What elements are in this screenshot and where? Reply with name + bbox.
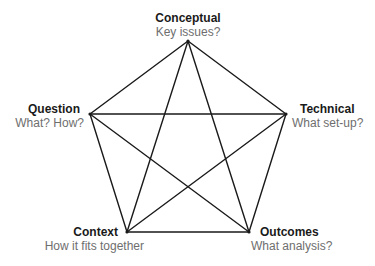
edge-question-conceptual — [90, 41, 188, 114]
node-technical: Technical What set-up? — [292, 102, 363, 130]
node-title: Technical — [292, 102, 363, 116]
vertex-conceptual — [186, 39, 189, 42]
node-title: Context — [45, 225, 144, 239]
edge-technical-outcomes — [249, 114, 286, 232]
node-title: Outcomes — [251, 225, 332, 239]
edge-conceptual-outcomes — [188, 41, 249, 232]
node-subtitle: What analysis? — [251, 239, 332, 253]
vertex-question — [88, 112, 91, 115]
edge-context-question — [90, 114, 127, 232]
edge-question-outcomes — [90, 114, 249, 232]
node-question: Question What? How? — [15, 102, 84, 130]
node-conceptual: Conceptual Key issues? — [155, 11, 220, 39]
node-subtitle: Key issues? — [155, 25, 220, 39]
node-subtitle: How it fits together — [45, 239, 144, 253]
edge-technical-context — [127, 114, 286, 232]
node-title: Conceptual — [155, 11, 220, 25]
node-context: Context How it fits together — [45, 225, 144, 253]
edge-conceptual-context — [127, 41, 188, 232]
node-subtitle: What? How? — [15, 116, 84, 130]
edge-conceptual-technical — [188, 41, 286, 114]
node-title: Question — [15, 102, 84, 116]
node-subtitle: What set-up? — [292, 116, 363, 130]
vertex-technical — [284, 112, 287, 115]
node-outcomes: Outcomes What analysis? — [251, 225, 332, 253]
